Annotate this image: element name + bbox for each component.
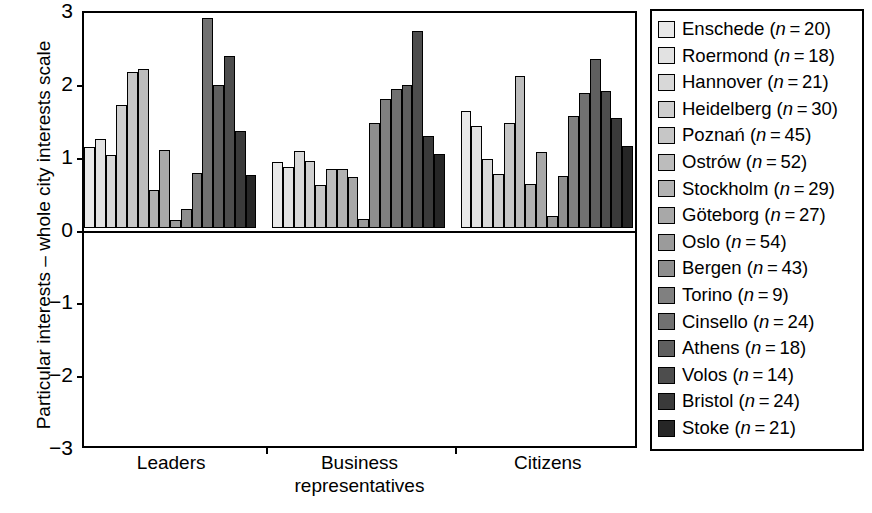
bar [224,56,235,228]
bar [358,219,369,228]
bar-group [272,13,450,446]
bar [558,176,569,228]
y-axis-tick-label: 1 [61,145,73,169]
bar [482,159,493,227]
bar [369,123,380,227]
legend-item[interactable]: Göteborg (n = 27) [658,202,858,229]
bar [294,151,305,227]
bar [504,123,515,227]
y-axis-tick-label: 3 [61,0,73,23]
x-axis-group-label-line: Citizens [459,451,637,474]
legend-label: Heidelberg (n = 30) [682,100,838,119]
legend-label: Ostrów (n = 52) [682,153,807,172]
legend-swatch [658,180,675,197]
bar [461,111,472,228]
legend-item[interactable]: Heidelberg (n = 30) [658,96,858,123]
legend-swatch [658,47,675,64]
plot-area [82,11,637,448]
legend-item[interactable]: Enschede (n = 20) [658,16,858,43]
legend-item[interactable]: Athens (n = 18) [658,335,858,362]
legend-item[interactable]: Stoke (n = 21) [658,415,858,442]
legend-item[interactable]: Stockholm (n = 29) [658,176,858,203]
legend-swatch [658,393,675,410]
legend-label: Roermond (n = 18) [682,47,835,66]
legend-label: Torino (n = 9) [682,286,789,305]
y-axis-tick-label: 0 [61,218,73,242]
x-axis-group-label: Businessrepresentatives [270,451,448,497]
bar [95,139,106,227]
legend-label: Poznań (n = 45) [682,126,811,145]
bar [192,173,203,228]
legend-item[interactable]: Hannover (n = 21) [658,69,858,96]
bar [138,69,149,228]
legend-label: Oslo (n = 54) [682,233,787,252]
bar [568,116,579,227]
legend-item[interactable]: Oslo (n = 54) [658,229,858,256]
legend-swatch [658,234,675,251]
legend: Enschede (n = 20)Roermond (n = 18)Hannov… [650,9,864,451]
bar [337,169,348,228]
legend-label: Cinsello (n = 24) [682,313,814,332]
legend-label: Stockholm (n = 29) [682,180,835,199]
bar [423,136,434,227]
bar-group [461,13,639,446]
legend-item[interactable]: Ostrów (n = 52) [658,149,858,176]
bar [611,118,622,228]
bar [348,177,359,227]
bar [525,184,536,228]
bar [315,185,326,228]
bar [305,161,316,228]
legend-swatch [658,207,675,224]
legend-swatch [658,74,675,91]
legend-item[interactable]: Roermond (n = 18) [658,43,858,70]
bar [272,162,283,228]
bar [622,146,633,228]
legend-swatch [658,154,675,171]
bar [391,89,402,227]
bar [471,126,482,228]
bar [235,131,246,227]
legend-item[interactable]: Torino (n = 9) [658,282,858,309]
legend-item[interactable]: Cinsello (n = 24) [658,309,858,336]
bar [246,175,257,227]
x-axis-group-label: Leaders [82,451,260,474]
y-axis-tick-label: 2 [61,72,73,96]
bar [402,85,413,227]
bar [181,209,192,227]
bar [159,150,170,227]
bar [149,190,160,228]
legend-label: Athens (n = 18) [682,339,806,358]
bar [127,72,138,228]
bar [434,154,445,228]
legend-label: Bristol (n = 24) [682,392,800,411]
y-axis-title: Particular interests – whole city intere… [33,5,55,465]
legend-item[interactable]: Volos (n = 14) [658,362,858,389]
bar [547,216,558,228]
y-axis-tick [77,85,84,87]
x-axis-tick [455,446,457,454]
legend-item[interactable]: Bergen (n = 43) [658,255,858,282]
legend-item[interactable]: Bristol (n = 24) [658,388,858,415]
bar [412,31,423,228]
x-axis-tick [266,446,268,454]
bar [380,99,391,228]
bar [601,91,612,228]
legend-label: Göteborg (n = 27) [682,206,826,225]
bar [213,85,224,227]
bar [536,152,547,227]
y-axis-tick [77,158,84,160]
legend-swatch [658,420,675,437]
legend-label: Bergen (n = 43) [682,259,808,278]
legend-swatch [658,313,675,330]
legend-item[interactable]: Poznań (n = 45) [658,122,858,149]
legend-label: Hannover (n = 21) [682,73,829,92]
bar [590,59,601,227]
plot-inner [84,13,635,446]
legend-label: Volos (n = 14) [682,366,794,385]
bar [283,167,294,227]
bar [106,155,117,228]
y-axis-tick [77,231,84,233]
legend-swatch [658,367,675,384]
legend-swatch [658,21,675,38]
legend-label: Enschede (n = 20) [682,20,831,39]
